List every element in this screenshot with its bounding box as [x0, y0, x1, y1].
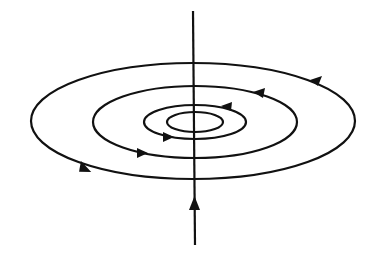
arrow-icon	[253, 88, 265, 98]
arrow-icon	[163, 132, 174, 142]
field-direction-arrows	[79, 76, 322, 174]
magnetic-field-diagram	[0, 0, 375, 259]
arrow-icon	[137, 148, 148, 158]
arrow-icon	[79, 161, 93, 174]
current-arrow-icon	[189, 196, 200, 210]
